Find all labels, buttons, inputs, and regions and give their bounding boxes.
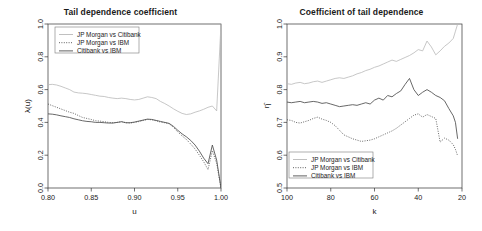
series-line-2 bbox=[48, 114, 221, 188]
y-tick-label: 0.2 bbox=[36, 150, 45, 160]
x-tick-label: 0.85 bbox=[84, 193, 98, 202]
x-axis-label: u bbox=[132, 207, 136, 216]
x-tick-label: 0.90 bbox=[128, 193, 142, 202]
x-tick-label: 60 bbox=[371, 193, 379, 202]
legend-label-1: JP Morgan vs IBM bbox=[311, 164, 363, 172]
plot-area-right: 100806040200.50.60.70.80.91.0kη̂JP Morga… bbox=[241, 0, 482, 231]
x-tick-label: 40 bbox=[414, 193, 422, 202]
y-tick-label: 0.5 bbox=[275, 183, 284, 193]
x-tick-label: 100 bbox=[281, 193, 293, 202]
x-tick-label: 20 bbox=[458, 193, 466, 202]
series-line-2 bbox=[287, 78, 458, 138]
figure-container: Tail dependence coefficient 0.800.850.90… bbox=[0, 0, 482, 231]
series-line-0 bbox=[287, 24, 458, 84]
y-tick-label: 0.4 bbox=[36, 117, 45, 127]
y-tick-label: 0.0 bbox=[36, 183, 45, 193]
y-axis-label: λ(u) bbox=[23, 99, 32, 113]
y-tick-label: 0.7 bbox=[275, 117, 284, 127]
legend-label-0: JP Morgan vs Citibank bbox=[77, 31, 142, 39]
y-tick-label: 0.8 bbox=[275, 85, 284, 95]
y-tick-label: 1.0 bbox=[275, 19, 284, 29]
series-group bbox=[287, 24, 458, 156]
y-tick-label: 0.6 bbox=[275, 150, 284, 160]
x-tick-label: 0.80 bbox=[41, 193, 55, 202]
y-tick-label: 1.0 bbox=[36, 19, 45, 29]
chart-panel-tail-dependence-coefficient: Tail dependence coefficient 0.800.850.90… bbox=[0, 0, 241, 231]
plot-area-left: 0.800.850.900.951.000.00.20.40.60.81.0uλ… bbox=[0, 0, 241, 231]
y-tick-label: 0.8 bbox=[36, 52, 45, 62]
y-tick-label: 0.6 bbox=[36, 85, 45, 95]
legend-label-0: JP Morgan vs Citibank bbox=[311, 156, 376, 164]
x-tick-label: 0.95 bbox=[171, 193, 185, 202]
legend-label-2: Citibank vs IBM bbox=[311, 172, 355, 179]
legend-label-1: JP Morgan vs IBM bbox=[77, 39, 129, 47]
chart-panel-coefficient-of-tail-dependence: Coefficient of tail dependence 100806040… bbox=[241, 0, 482, 231]
x-axis-label: k bbox=[373, 207, 378, 216]
series-line-1 bbox=[48, 104, 221, 188]
series-line-1 bbox=[287, 114, 458, 156]
legend-label-2: Citibank vs IBM bbox=[77, 47, 121, 54]
x-tick-label: 1.00 bbox=[214, 193, 228, 202]
x-tick-label: 80 bbox=[327, 193, 335, 202]
y-axis-label: η̂ bbox=[262, 102, 271, 108]
y-tick-label: 0.9 bbox=[275, 52, 284, 62]
